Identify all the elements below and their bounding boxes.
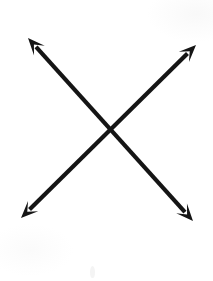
crossing-arrows-diagram: Crossing Arrows Diagram: [0, 0, 213, 281]
arrow-nesw: [21, 45, 196, 218]
diagram-canvas: Crossing Arrows Diagram Two straight dou…: [0, 0, 213, 281]
